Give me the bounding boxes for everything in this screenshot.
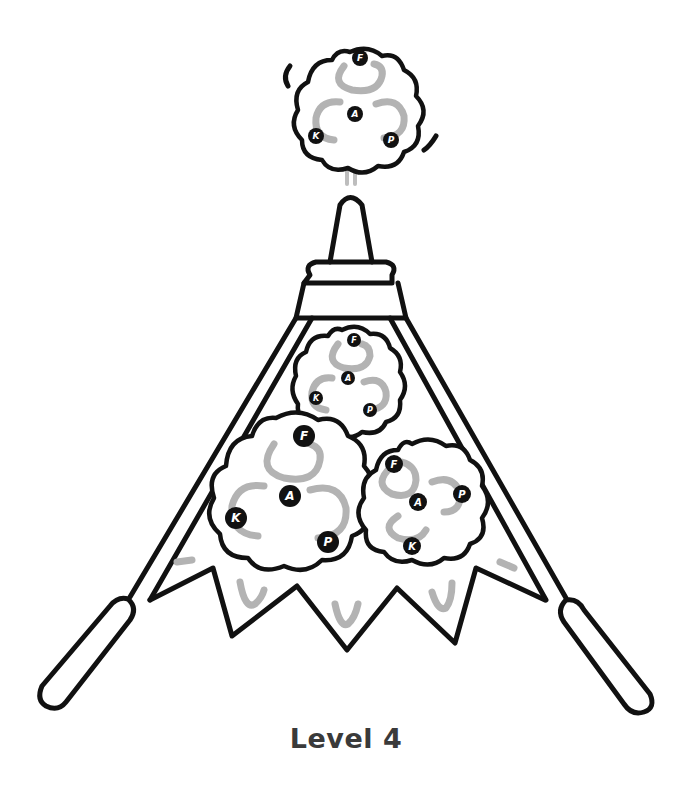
svg-text:P: P (324, 535, 333, 549)
svg-text:P: P (388, 135, 395, 145)
svg-text:A: A (351, 109, 359, 119)
motion-mark-left (285, 66, 290, 86)
svg-text:K: K (408, 541, 417, 552)
motion-mark-right (424, 136, 436, 150)
svg-text:A: A (344, 374, 351, 383)
cloud-inner-left: F A K P (209, 412, 372, 569)
svg-text:A: A (284, 489, 294, 503)
level-caption: Level 4 (0, 723, 692, 754)
svg-text:F: F (351, 336, 357, 345)
svg-text:A: A (413, 497, 422, 508)
svg-text:K: K (313, 394, 320, 403)
svg-text:K: K (313, 131, 321, 141)
svg-text:P: P (458, 489, 466, 500)
level-4-illustration: F A K P F A K P F A K P (0, 0, 692, 795)
svg-text:F: F (300, 429, 309, 443)
svg-text:F: F (357, 53, 364, 63)
cloud-top: F A K P (294, 49, 424, 173)
svg-text:F: F (391, 459, 398, 470)
cloud-inner-right: F A P K (358, 439, 488, 564)
svg-text:P: P (367, 406, 373, 415)
